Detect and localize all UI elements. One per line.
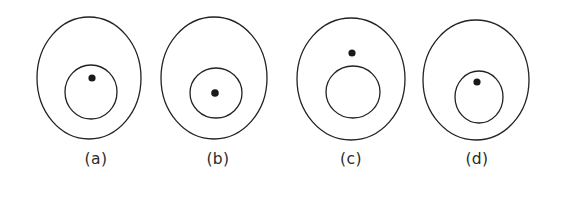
panel-d: (d)	[423, 20, 529, 168]
circle-configurations-figure: (a)(b)(c)(d)	[0, 0, 561, 197]
panel-c: (c)	[297, 18, 405, 168]
panels-group: (a)(b)(c)(d)	[37, 17, 529, 168]
outer-circle-c	[297, 18, 405, 140]
panel-label-d: (d)	[465, 150, 488, 168]
panel-label-c: (c)	[340, 150, 362, 168]
point-dot-b	[211, 89, 219, 97]
point-dot-a	[88, 74, 95, 81]
panel-label-b: (b)	[206, 150, 229, 168]
inner-circle-d	[455, 71, 503, 123]
outer-circle-b	[161, 17, 267, 139]
inner-circle-c	[326, 66, 380, 118]
inner-circle-a	[65, 65, 117, 119]
figure-canvas: (a)(b)(c)(d)	[0, 0, 561, 197]
point-dot-d	[473, 78, 480, 85]
panel-label-a: (a)	[85, 150, 108, 168]
panel-a: (a)	[37, 17, 141, 168]
point-dot-c	[348, 49, 355, 56]
panel-b: (b)	[161, 17, 267, 168]
